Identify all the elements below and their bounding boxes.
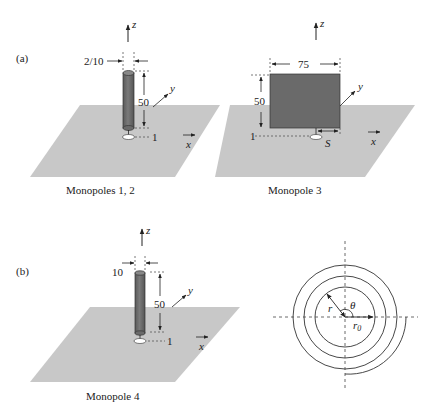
width-label: 75 — [298, 58, 310, 70]
z-axis-label: z — [131, 18, 137, 30]
radius-label: r — [328, 302, 333, 314]
z-axis-label: z — [319, 17, 325, 29]
y-axis-arrow — [340, 91, 355, 106]
monopole-3-figure: z 75 50 1 S y x Monopole 3 — [215, 17, 415, 196]
panel-a-label: (a) — [16, 52, 29, 65]
antenna-diagram: (a) z 2/10 50 1 y x Monopoles 1, 2 — [0, 0, 432, 415]
caption-monopole-3: Monopole 3 — [268, 184, 322, 196]
r0-label: r0 — [353, 319, 361, 333]
theta-label: θ — [350, 299, 356, 311]
z-axis-label: z — [145, 224, 151, 236]
x-axis-label: x — [370, 135, 376, 147]
gap-label: 1 — [152, 131, 158, 143]
y-axis-label: y — [169, 82, 175, 94]
gap-label: 1 — [250, 130, 256, 142]
y-axis-label: y — [357, 80, 363, 92]
spiral-figure: r θ r0 — [273, 241, 418, 391]
caption-monopole-4: Monopole 4 — [86, 390, 140, 402]
monopole-cylinder — [135, 273, 145, 333]
offset-label: S — [325, 137, 331, 149]
feed-port — [123, 135, 135, 140]
y-axis-arrow — [172, 295, 186, 307]
feed-port — [310, 135, 322, 140]
feed-port — [134, 339, 146, 344]
monopole-1-2-figure: (a) z 2/10 50 1 y x Monopoles 1, 2 — [16, 18, 220, 196]
gap-label: 1 — [167, 335, 173, 347]
planar-plate — [270, 74, 340, 128]
x-axis-label: x — [185, 138, 191, 150]
diameter-label: 2/10 — [84, 55, 104, 67]
monopole-cylinder — [123, 73, 134, 128]
y-axis-label: y — [187, 284, 193, 296]
monopole-4-figure: (b) z 10 50 1 y x Monopole 4 — [16, 224, 240, 402]
diameter-label: 10 — [112, 266, 124, 278]
height-label: 50 — [154, 298, 166, 310]
height-label: 50 — [138, 96, 150, 108]
height-label: 50 — [254, 95, 266, 107]
x-axis-label: x — [198, 340, 204, 352]
panel-b-label: (b) — [16, 265, 29, 278]
caption-monopoles-1-2: Monopoles 1, 2 — [66, 184, 135, 196]
